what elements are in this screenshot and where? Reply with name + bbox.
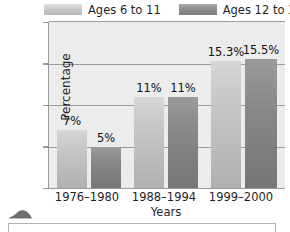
bar-series-1-cat-0: 5% — [91, 147, 121, 189]
x-axis-label: Years — [48, 205, 284, 219]
plot-area: 7% 5% 11% 11% 15.3% 15.5% Percentage — [48, 22, 285, 189]
bar-series-1-cat-1: 11% — [168, 97, 198, 188]
bar-value-series-1-cat-2: 15.5% — [243, 44, 280, 57]
bar-value-series-0-cat-2: 15.3% — [208, 46, 245, 59]
bar-value-series-0-cat-1: 11% — [136, 82, 162, 95]
bar-chart-figure: Ages 6 to 11 Ages 12 to 19 7% 5% 11% 11% — [0, 0, 290, 232]
caption-box — [8, 223, 276, 232]
legend-label-series-1: Ages 12 to 19 — [223, 4, 290, 16]
bar-series-0-cat-2: 15.3% — [211, 61, 241, 188]
legend-entry-series-0: Ages 6 to 11 — [44, 4, 161, 16]
x-tick-label-1: 1988–1994 — [125, 191, 203, 204]
legend-swatch-icon-series-0 — [44, 4, 82, 15]
legend-entry-series-1: Ages 12 to 19 — [179, 4, 290, 16]
legend-swatch-icon-series-1 — [179, 4, 217, 15]
x-tick-label-0: 1976–1980 — [48, 191, 126, 204]
bar-value-series-1-cat-1: 11% — [170, 82, 196, 95]
bar-series-0-cat-0: 7% — [57, 130, 87, 188]
bar-value-series-1-cat-0: 5% — [97, 132, 115, 145]
bar-series-1-cat-2: 15.5% — [245, 59, 277, 188]
bar-series-0-cat-1: 11% — [134, 97, 164, 188]
x-tick-label-2: 1999–2000 — [202, 191, 280, 204]
legend-label-series-0: Ages 6 to 11 — [88, 4, 161, 16]
y-axis-label: Percentage — [59, 39, 73, 135]
bar-group-container: 7% 5% 11% 11% 15.3% 15.5% — [49, 22, 285, 188]
chart-legend: Ages 6 to 11 Ages 12 to 19 — [44, 1, 290, 18]
pointer-blob-icon — [8, 208, 34, 220]
